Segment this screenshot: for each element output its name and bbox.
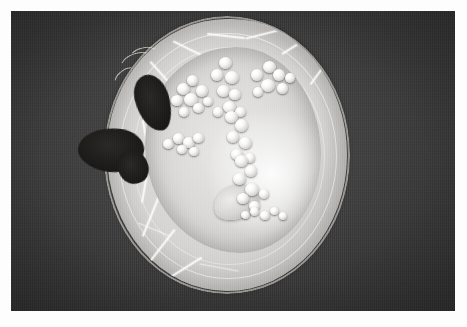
specimen-artery-cross-section xyxy=(105,17,349,293)
plaque-nodule-cluster-left-mid xyxy=(163,129,213,163)
plaque-nodule-cluster-lower-right xyxy=(241,205,295,231)
figure-root: Cross-section of artery with calcified a… xyxy=(0,0,467,327)
photograph-field xyxy=(11,11,455,311)
plaque-nodule-cluster-upper-right xyxy=(251,61,303,109)
